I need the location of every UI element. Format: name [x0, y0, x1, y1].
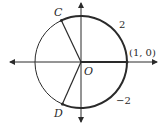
label-d: D: [53, 107, 63, 120]
unit-circle-diagram: C D O (1, 0) 2 −2: [0, 0, 164, 125]
label-c: C: [54, 6, 63, 19]
label-arc-neg2: −2: [116, 95, 131, 106]
radius-to-d: [62, 62, 81, 104]
label-arc-2: 2: [119, 19, 125, 30]
point-c: [60, 19, 63, 22]
point-d: [61, 103, 64, 106]
point-1-0: [126, 61, 129, 64]
label-origin: O: [84, 65, 93, 78]
radius-to-c: [61, 20, 81, 62]
label-1-0: (1, 0): [129, 47, 156, 58]
